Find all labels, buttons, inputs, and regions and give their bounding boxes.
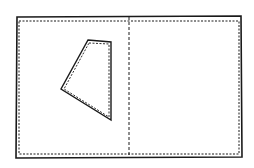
sewing-pattern-diagram bbox=[0, 0, 254, 168]
patch-outline bbox=[61, 40, 111, 120]
patch-stitch-line bbox=[64, 43, 109, 117]
